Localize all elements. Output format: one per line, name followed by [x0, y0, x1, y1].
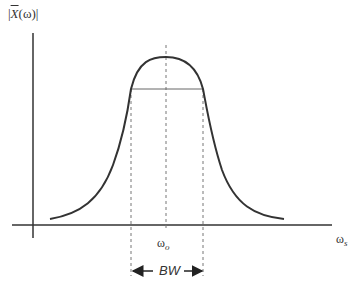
y-axis-label: |X(ω)|	[8, 6, 38, 22]
magnitude-curve	[50, 57, 284, 219]
center-frequency-label: ωo	[157, 236, 169, 252]
x-axis-label: ωs	[336, 232, 347, 248]
diagram-canvas	[0, 0, 355, 288]
bandwidth-label: BW	[159, 263, 180, 278]
